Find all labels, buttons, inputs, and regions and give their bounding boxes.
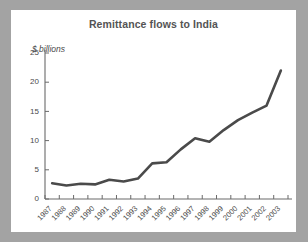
x-tick-label-group: 1987198819891990199119921993199419951996… <box>35 204 282 222</box>
x-tick-label: 2000 <box>221 204 239 222</box>
x-tick-label: 1990 <box>78 204 96 222</box>
x-tick-label: 2003 <box>264 204 282 222</box>
y-tick-mark-group <box>45 53 49 199</box>
y-tick-label: 25 <box>30 48 39 57</box>
y-tick-label-group: 0510152025 <box>30 48 39 203</box>
x-tick-label: 2001 <box>235 204 253 222</box>
figure-root: Remittance flows to India $ billions 051… <box>0 0 308 242</box>
x-tick-label: 1999 <box>207 204 225 222</box>
x-tick-label: 1993 <box>121 204 139 222</box>
x-tick-label: 1992 <box>107 204 125 222</box>
y-tick-label: 15 <box>30 107 39 116</box>
x-tick-label: 1991 <box>92 204 110 222</box>
x-tick-label: 2002 <box>250 204 268 222</box>
y-tick-label: 5 <box>35 165 40 174</box>
y-tick-label: 0 <box>35 194 40 203</box>
chart-plot-area: 0510152025 19871988198919901991199219931… <box>11 10 296 232</box>
x-tick-label: 1996 <box>164 204 182 222</box>
chart-card: Remittance flows to India $ billions 051… <box>11 10 296 232</box>
x-tick-label: 1994 <box>135 204 153 222</box>
x-tick-label: 1995 <box>150 204 168 222</box>
x-tick-label: 1989 <box>64 204 82 222</box>
data-series-line <box>52 71 281 186</box>
x-tick-label: 1988 <box>50 204 68 222</box>
x-tick-label: 1987 <box>35 204 53 222</box>
y-tick-label: 10 <box>30 136 39 145</box>
y-tick-label: 20 <box>30 77 39 86</box>
x-tick-label: 1998 <box>192 204 210 222</box>
x-tick-mark-group <box>45 195 288 199</box>
x-tick-label: 1997 <box>178 204 196 222</box>
